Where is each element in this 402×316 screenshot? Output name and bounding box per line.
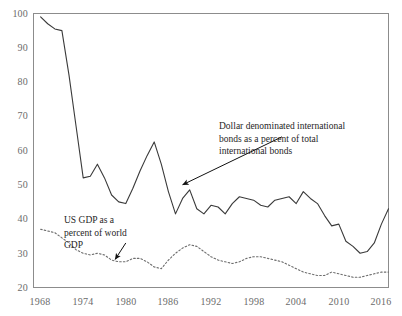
chart-figure: 100 90 80 70 60 50 40 30 20 1968 1974 19… xyxy=(0,0,402,316)
y-tick-label-50: 50 xyxy=(4,179,28,190)
y-tick-label-90: 90 xyxy=(4,42,28,53)
x-tick-label-1998: 1998 xyxy=(234,296,274,307)
chart-canvas xyxy=(0,0,402,316)
annotation-label-us-gdp: US GDP as a percent of world GDP xyxy=(64,214,160,252)
x-tick-label-1992: 1992 xyxy=(191,296,231,307)
x-tick-label-1986: 1986 xyxy=(148,296,188,307)
y-tick-label-60: 60 xyxy=(4,145,28,156)
x-tick-label-2016: 2016 xyxy=(361,296,401,307)
x-tick-label-2010: 2010 xyxy=(319,296,359,307)
y-tick-label-70: 70 xyxy=(4,110,28,121)
x-tick-label-2004: 2004 xyxy=(276,296,316,307)
y-tick-label-100: 100 xyxy=(4,8,28,19)
annotation-label-bonds: Dollar denominated international bonds a… xyxy=(219,120,389,158)
x-tick-label-1968: 1968 xyxy=(20,296,60,307)
y-tick-label-80: 80 xyxy=(4,76,28,87)
y-tick-label-30: 30 xyxy=(4,248,28,259)
x-tick-label-1980: 1980 xyxy=(106,296,146,307)
x-tick-label-1974: 1974 xyxy=(63,296,103,307)
y-tick-label-40: 40 xyxy=(4,213,28,224)
y-tick-label-20: 20 xyxy=(4,282,28,293)
